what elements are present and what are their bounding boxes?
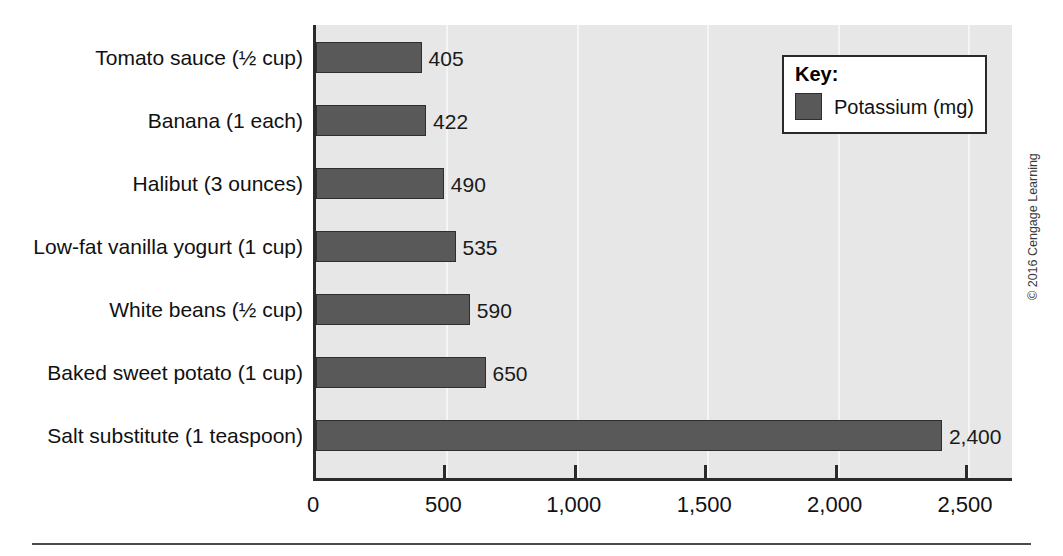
bar-value-label: 535 [456, 236, 498, 257]
bar[interactable] [316, 420, 942, 451]
category-label: Banana (1 each) [0, 110, 303, 131]
x-axis-tick-label: 1,000 [546, 494, 601, 516]
category-label: Salt substitute (1 teaspoon) [0, 425, 303, 446]
x-axis-tick-mark [965, 465, 968, 481]
x-axis-tick-mark [835, 465, 838, 481]
x-axis-tick-mark [574, 465, 577, 481]
x-axis-tick-label: 0 [307, 494, 319, 516]
bar-row[interactable]: 535 [316, 231, 1015, 262]
category-label: Halibut (3 ounces) [0, 173, 303, 194]
copyright-notice: © 2016 Cengage Learning [1026, 153, 1040, 300]
x-axis-tick-label: 1,500 [677, 494, 732, 516]
bar[interactable] [316, 42, 422, 73]
x-axis-tick-mark [704, 465, 707, 481]
x-axis-tick-label: 500 [425, 494, 462, 516]
bar-row[interactable]: 650 [316, 357, 1015, 388]
bottom-divider [32, 543, 1031, 545]
legend-title: Key: [795, 64, 985, 84]
x-axis: 05001,0001,5002,0002,500 [313, 481, 1015, 541]
bar-value-label: 405 [422, 47, 464, 68]
category-label: Low-fat vanilla yogurt (1 cup) [0, 236, 303, 257]
bar-value-label: 590 [470, 299, 512, 320]
bar-value-label: 650 [486, 362, 528, 383]
bar-value-label: 2,400 [942, 425, 1002, 446]
bar[interactable] [316, 105, 426, 136]
bar-row[interactable]: 2,400 [316, 420, 1015, 451]
bar-value-label: 490 [444, 173, 486, 194]
bar[interactable] [316, 294, 470, 325]
x-axis-tick-mark [443, 465, 446, 481]
bar-value-label: 422 [426, 110, 468, 131]
chart-legend: Key: Potassium (mg) [782, 55, 987, 134]
category-label: Baked sweet potato (1 cup) [0, 362, 303, 383]
bar-row[interactable]: 490 [316, 168, 1015, 199]
potassium-bar-chart-figure: Tomato sauce (½ cup)Banana (1 each)Halib… [0, 0, 1063, 556]
legend-entry: Potassium (mg) [795, 93, 985, 120]
x-axis-tick-label: 2,000 [807, 494, 862, 516]
category-label: White beans (½ cup) [0, 299, 303, 320]
legend-entry-label: Potassium (mg) [834, 97, 974, 117]
x-axis-tick-label: 2,500 [937, 494, 992, 516]
bar[interactable] [316, 231, 456, 262]
category-axis-labels: Tomato sauce (½ cup)Banana (1 each)Halib… [0, 25, 303, 481]
bar-row[interactable]: 590 [316, 294, 1015, 325]
bar[interactable] [316, 357, 486, 388]
bar[interactable] [316, 168, 444, 199]
legend-color-swatch-icon [795, 93, 822, 120]
category-label: Tomato sauce (½ cup) [0, 47, 303, 68]
